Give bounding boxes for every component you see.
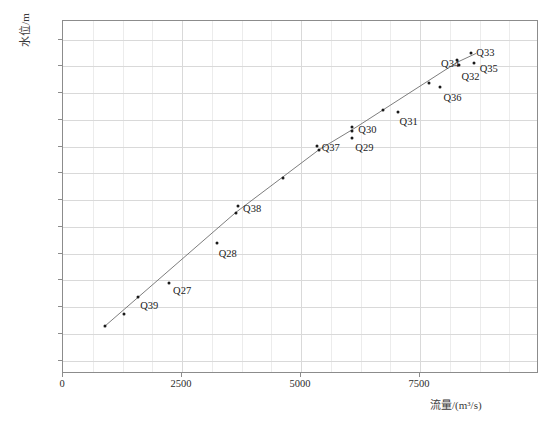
data-point [215, 242, 218, 245]
data-point-label: Q37 [322, 142, 340, 153]
data-point [315, 144, 318, 147]
data-point-label: Q30 [358, 124, 376, 135]
data-point [318, 148, 321, 151]
data-point-label: Q39 [140, 300, 158, 311]
data-point [351, 136, 354, 139]
data-point-label: Q28 [219, 248, 237, 259]
data-point [103, 325, 106, 328]
data-point [122, 313, 125, 316]
data-point [472, 61, 475, 64]
data-point [351, 129, 354, 132]
data-point-label: Q32 [461, 71, 479, 82]
data-point [458, 64, 461, 67]
data-point [234, 211, 237, 214]
rating-curve-chart: 水位/m 流量/(m³/s) 22. 0023. 0024. 0025. 002… [0, 0, 558, 422]
data-point-label: Q31 [400, 116, 418, 127]
data-point-label: Q34 [441, 58, 459, 69]
data-point [439, 85, 442, 88]
data-point [237, 204, 240, 207]
data-point-label: Q33 [476, 47, 494, 58]
data-point [351, 125, 354, 128]
data-point [382, 108, 385, 111]
data-points-layer: Q39Q27Q28Q38Q37Q30Q29Q31Q36Q34Q32Q33Q35 [0, 0, 558, 422]
data-point [137, 295, 140, 298]
data-point [427, 81, 430, 84]
data-point [396, 111, 399, 114]
data-point [282, 176, 285, 179]
data-point [168, 282, 171, 285]
data-point-label: Q29 [355, 142, 373, 153]
data-point-label: Q36 [443, 92, 461, 103]
data-point-label: Q27 [173, 285, 191, 296]
data-point-label: Q35 [480, 63, 498, 74]
data-point [470, 52, 473, 55]
data-point-label: Q38 [243, 203, 261, 214]
